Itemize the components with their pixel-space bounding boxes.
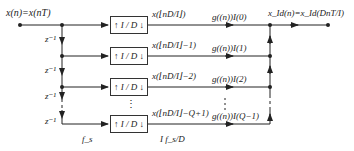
coef-2: g((n))I(2): [212, 75, 246, 84]
coef-0: g((n))I(0): [212, 13, 246, 22]
vertical-ellipsis: ⋮: [126, 99, 136, 109]
rate-in-label: f_s: [82, 135, 93, 144]
coef-1: g((n))I(1): [212, 44, 246, 53]
resampler-box-2: ↑ I / D ↓: [110, 78, 148, 96]
delay-label-4: z⁻¹: [45, 117, 56, 126]
resampler-box-q: ↑ I / D ↓: [110, 115, 148, 133]
delay-label-2: z⁻¹: [45, 66, 56, 75]
polyphase-resampler-diagram: x(n)=x(nT) x_Id(n)=x_Id(DnT/I) z⁻¹ z⁻¹ z…: [0, 0, 354, 151]
input-label: x(n)=x(nT): [6, 8, 51, 18]
branch-signal-2: x(⌊nD/I⌋−2): [152, 72, 196, 81]
branch-signal-1: x(⌊nD/I⌋−1): [152, 41, 196, 50]
coef-q: g((n))I(Q−1): [212, 112, 259, 121]
rate-out-label: I f_s/D: [160, 135, 185, 144]
resampler-box-1: ↑ I / D ↓: [110, 47, 148, 65]
resampler-box-0: ↑ I / D ↓: [110, 16, 148, 34]
branch-signal-0: x(⌊nD/I⌋): [152, 10, 186, 19]
delay-label-3: z⁻¹: [45, 92, 56, 101]
output-label: x_Id(n)=x_Id(DnT/I): [268, 9, 344, 18]
delay-label-1: z⁻¹: [45, 35, 56, 44]
branch-signal-q: x(⌊nD/I⌋−Q+1): [152, 109, 209, 118]
